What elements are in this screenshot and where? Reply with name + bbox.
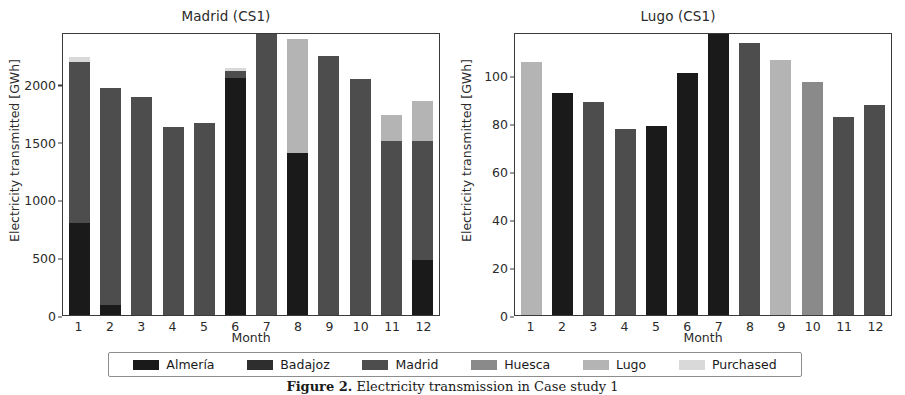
legend-swatch-icon xyxy=(247,360,273,370)
bar-segment-madrid xyxy=(350,79,371,315)
bar xyxy=(350,79,371,315)
bar-segment-huesca xyxy=(802,82,823,315)
y-tick-label: 2000 xyxy=(24,77,62,92)
bar-group-madrid xyxy=(63,34,439,315)
legend: AlmeríaBadajozMadridHuescaLugoPurchased xyxy=(108,352,802,377)
bar-segment-lugo xyxy=(412,101,433,140)
bar xyxy=(708,33,729,315)
bar-segment-madrid xyxy=(69,62,90,223)
y-axis-ticks-madrid: 0500100015002000 xyxy=(0,33,62,316)
bar-segment-madrid xyxy=(225,71,246,78)
bar xyxy=(225,68,246,315)
bar xyxy=(521,62,542,315)
legend-swatch-icon xyxy=(133,360,159,370)
panel-lugo: Lugo (CS1) Electricity transmitted [GWh]… xyxy=(452,0,904,345)
bar-segment-madrid xyxy=(381,141,402,315)
bar-segment-almera xyxy=(646,126,667,315)
bar-segment-almera xyxy=(100,305,121,315)
bar-segment-madrid xyxy=(318,56,339,315)
bar xyxy=(381,115,402,315)
bar-segment-madrid xyxy=(256,33,277,315)
bar-segment-madrid xyxy=(615,129,636,315)
bar-segment-lugo xyxy=(770,60,791,315)
bar xyxy=(802,82,823,315)
bar-segment-madrid xyxy=(739,43,760,315)
legend-label: Huesca xyxy=(504,357,550,372)
x-axis-label-madrid: Month xyxy=(62,330,440,345)
legend-item-almeria[interactable]: Almería xyxy=(133,357,214,372)
chart-panels: Madrid (CS1) Electricity transmitted [GW… xyxy=(0,0,905,345)
legend-item-purchased[interactable]: Purchased xyxy=(679,357,777,372)
bar-segment-lugo xyxy=(381,115,402,141)
bar-segment-madrid xyxy=(131,97,152,315)
bar-segment-almera xyxy=(412,260,433,315)
bar xyxy=(163,127,184,315)
bar xyxy=(833,117,854,315)
bar xyxy=(287,39,308,315)
bar xyxy=(194,123,215,315)
legend-label: Lugo xyxy=(616,357,646,372)
bar xyxy=(552,93,573,315)
bar xyxy=(412,101,433,315)
y-tick-label: 1500 xyxy=(24,135,62,150)
y-tick-label: 500 xyxy=(32,251,62,266)
legend-swatch-icon xyxy=(362,360,388,370)
legend-item-badajoz[interactable]: Badajoz xyxy=(247,357,330,372)
bar xyxy=(131,97,152,315)
bar-segment-lugo xyxy=(287,39,308,153)
bar xyxy=(864,105,885,315)
bar-segment-almera xyxy=(708,33,729,315)
plot-area-lugo xyxy=(514,33,892,316)
y-tick-label: 80 xyxy=(492,117,514,132)
bar xyxy=(256,33,277,315)
bar-segment-almera xyxy=(69,223,90,315)
figure: Madrid (CS1) Electricity transmitted [GW… xyxy=(0,0,905,395)
y-tick-label: 0 xyxy=(48,309,62,324)
legend-label: Almería xyxy=(166,357,214,372)
bar-segment-almera xyxy=(287,153,308,315)
bar-segment-madrid xyxy=(100,88,121,305)
plot-area-madrid xyxy=(62,33,440,316)
bar-segment-almera xyxy=(677,73,698,315)
caption-text: Electricity transmission in Case study 1 xyxy=(352,379,618,394)
figure-caption: Figure 2. Electricity transmission in Ca… xyxy=(0,379,905,394)
plot-frame-lugo xyxy=(514,33,892,316)
legend-swatch-icon xyxy=(679,360,705,370)
y-tick-label: 1000 xyxy=(24,193,62,208)
bar-segment-madrid xyxy=(163,127,184,315)
legend-item-lugo[interactable]: Lugo xyxy=(583,357,646,372)
bar-segment-madrid xyxy=(833,117,854,315)
x-axis-label-lugo: Month xyxy=(514,330,892,345)
bar-segment-madrid xyxy=(412,141,433,260)
bar-group-lugo xyxy=(515,34,891,315)
legend-label: Badajoz xyxy=(280,357,330,372)
bar xyxy=(100,88,121,315)
legend-item-madrid[interactable]: Madrid xyxy=(362,357,438,372)
legend-item-huesca[interactable]: Huesca xyxy=(471,357,550,372)
y-tick-label: 20 xyxy=(492,261,514,276)
caption-prefix: Figure 2. xyxy=(286,379,352,394)
bar-segment-lugo xyxy=(521,62,542,315)
y-axis-ticks-lugo: 020406080100 xyxy=(452,33,514,316)
bar xyxy=(69,57,90,315)
bar-segment-madrid xyxy=(583,102,604,315)
bar xyxy=(646,126,667,315)
y-tick-label: 100 xyxy=(484,69,514,84)
legend-swatch-icon xyxy=(471,360,497,370)
bar xyxy=(677,73,698,315)
bar-segment-madrid xyxy=(194,123,215,315)
legend-label: Madrid xyxy=(395,357,438,372)
y-tick-label: 40 xyxy=(492,213,514,228)
legend-swatch-icon xyxy=(583,360,609,370)
legend-label: Purchased xyxy=(712,357,777,372)
bar-segment-almera xyxy=(552,93,573,315)
y-tick-label: 0 xyxy=(500,309,514,324)
panel-title-lugo: Lugo (CS1) xyxy=(452,8,904,24)
bar-segment-madrid xyxy=(864,105,885,315)
plot-frame-madrid xyxy=(62,33,440,316)
bar xyxy=(583,102,604,315)
bar xyxy=(739,43,760,315)
panel-madrid: Madrid (CS1) Electricity transmitted [GW… xyxy=(0,0,452,345)
y-tick-label: 60 xyxy=(492,165,514,180)
bar-segment-almera xyxy=(225,78,246,315)
